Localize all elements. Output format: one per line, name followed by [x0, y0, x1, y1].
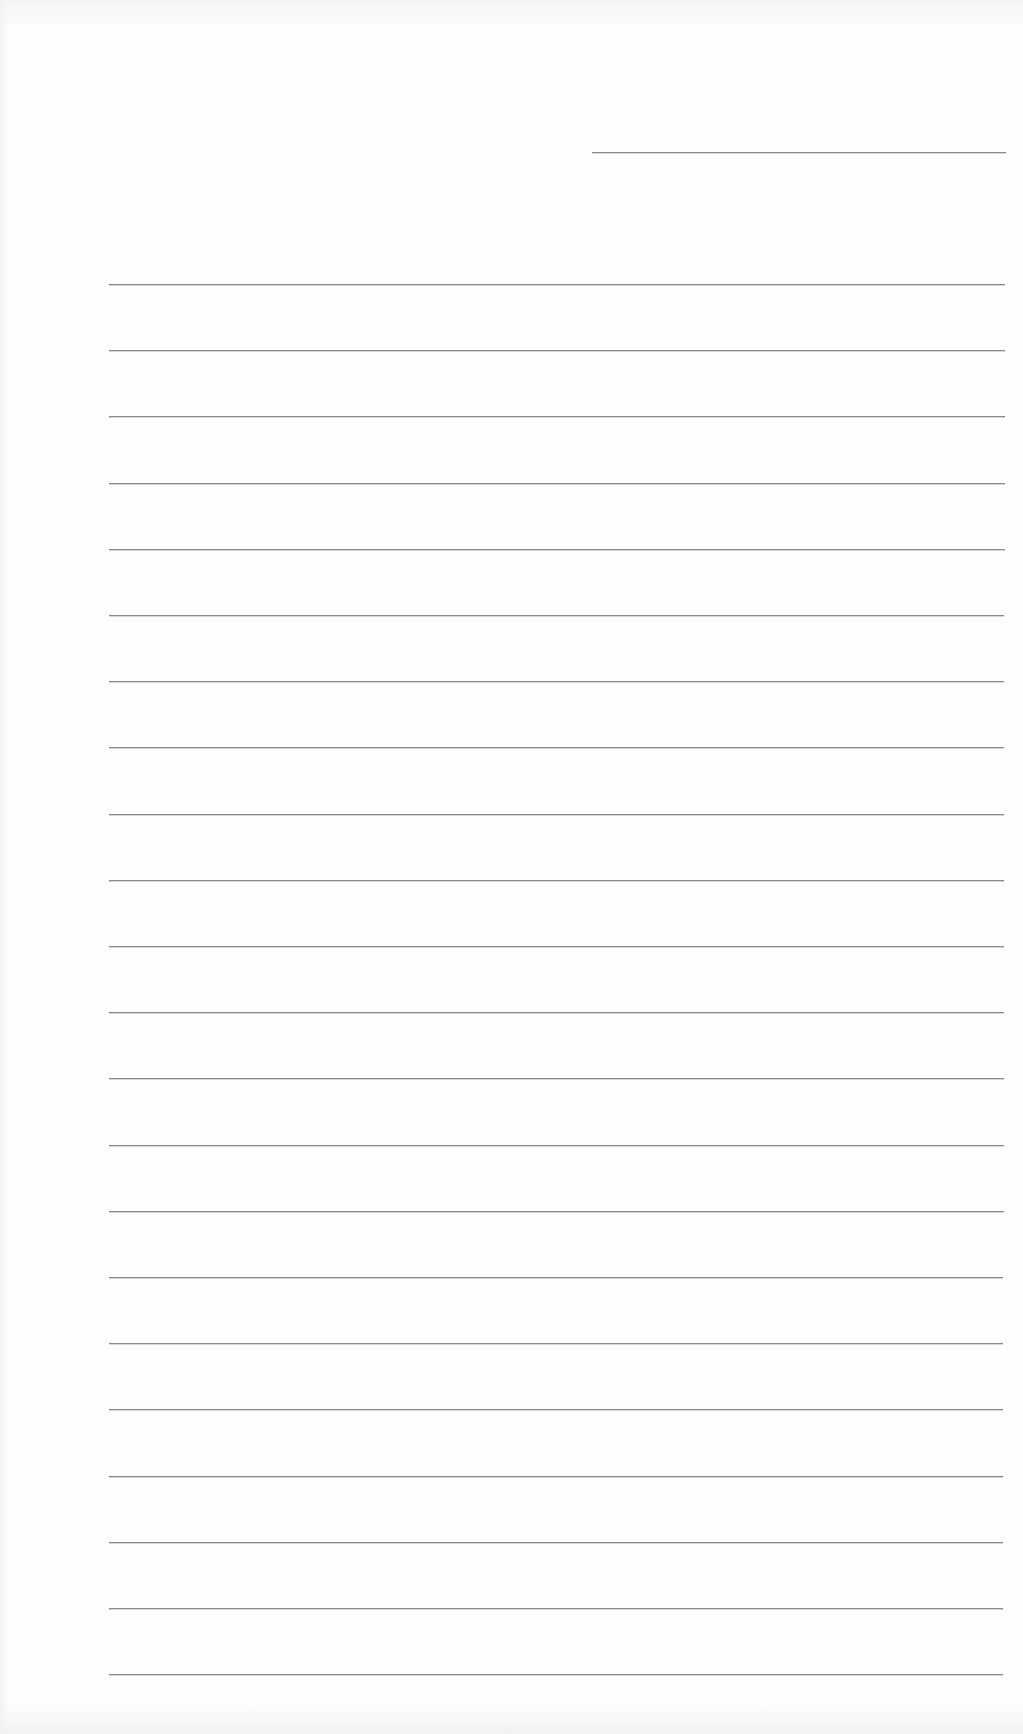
ruled-line	[109, 549, 1005, 550]
lined-paper-page	[0, 0, 1023, 1734]
ruled-line	[109, 1012, 1004, 1013]
ruled-line	[109, 814, 1004, 815]
ruled-line	[109, 1277, 1003, 1278]
ruled-line	[109, 1542, 1003, 1543]
ruled-line	[109, 1211, 1004, 1212]
ruled-line	[109, 1476, 1003, 1477]
ruled-line	[109, 1409, 1003, 1410]
header-name-line	[592, 152, 1006, 153]
ruled-line	[109, 1674, 1003, 1675]
ruled-line	[109, 946, 1004, 947]
ruled-line	[109, 1343, 1003, 1344]
ruled-line	[109, 1145, 1004, 1146]
bottom-edge-shadow	[0, 1700, 1023, 1734]
left-edge-shadow	[0, 0, 8, 1734]
ruled-line	[109, 350, 1005, 351]
ruled-line	[109, 615, 1004, 616]
ruled-line	[109, 483, 1005, 484]
top-edge-shadow	[0, 0, 1023, 30]
ruled-line	[109, 284, 1005, 285]
ruled-line	[109, 681, 1004, 682]
ruled-line	[109, 1608, 1003, 1609]
ruled-line	[109, 416, 1005, 417]
ruled-line	[109, 747, 1004, 748]
ruled-line	[109, 1078, 1004, 1079]
ruled-line	[109, 880, 1004, 881]
